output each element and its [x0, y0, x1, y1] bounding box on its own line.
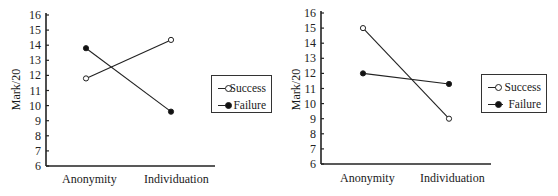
y-tick-label: 12 [29, 68, 41, 82]
y-tick-label: 7 [35, 144, 41, 158]
y-axis-label: Mark/20 [9, 65, 24, 115]
open-circle-marker-icon [487, 82, 501, 92]
y-tick-label: 9 [310, 112, 316, 126]
y-tick-label: 10 [29, 99, 41, 113]
y-tick-label: 10 [304, 97, 316, 111]
y-tick-label: 15 [304, 21, 316, 35]
y-tick-label: 11 [304, 82, 316, 96]
legend: Success Failure [211, 75, 272, 113]
y-tick-label: 14 [29, 38, 41, 52]
data-point-failure [360, 71, 365, 76]
data-point-success [168, 37, 173, 42]
y-tick-label: 9 [35, 114, 41, 128]
data-point-success [83, 76, 88, 81]
data-point-failure [83, 46, 88, 51]
y-axis-label: Mark/20 [289, 65, 304, 115]
y-tick-label: 7 [310, 142, 316, 156]
y-tick-label: 16 [304, 6, 316, 20]
legend-item-success: Success [217, 79, 266, 96]
y-tick-label: 13 [29, 53, 41, 67]
y-tick-label: 11 [29, 84, 41, 98]
y-tick-label: 13 [304, 51, 316, 65]
series-line-success [86, 40, 171, 79]
x-category-individuation: Individuation [420, 171, 485, 186]
legend-label: Failure [233, 99, 266, 111]
filled-circle-marker-icon [217, 100, 229, 110]
data-point-failure [168, 109, 173, 114]
legend-item-failure: Failure [487, 95, 541, 112]
y-tick-label: 8 [310, 127, 316, 141]
legend-item-success: Success [487, 78, 541, 95]
y-tick-label: 15 [29, 23, 41, 37]
filled-circle-marker-icon [487, 99, 504, 109]
x-category-anonymity: Anonymity [62, 172, 117, 187]
y-tick-label: 8 [35, 129, 41, 143]
series-line-failure [86, 48, 171, 111]
x-category-anonymity: Anonymity [340, 171, 395, 186]
series-line-success [363, 28, 449, 119]
y-tick-label: 12 [304, 66, 316, 80]
open-circle-marker-icon [217, 83, 226, 93]
data-point-success [360, 26, 365, 31]
y-tick-label: 6 [35, 159, 41, 173]
legend-label: Success [230, 82, 266, 94]
legend: Success Failure [481, 74, 547, 113]
series-line-failure [363, 73, 449, 84]
data-point-success [446, 116, 451, 121]
legend-label: Failure [508, 98, 541, 110]
y-tick-label: 6 [310, 157, 316, 171]
legend-label: Success [505, 81, 541, 93]
legend-item-failure: Failure [217, 96, 266, 113]
chart-left: 678910111213141516 Mark/20 Anonymity Ind… [0, 0, 279, 196]
x-category-individuation: Individuation [144, 172, 209, 187]
chart-right: 678910111213141516 Mark/20 Anonymity Ind… [279, 0, 558, 196]
y-tick-label: 14 [304, 36, 316, 50]
data-point-failure [446, 81, 451, 86]
y-tick-label: 16 [29, 8, 41, 22]
